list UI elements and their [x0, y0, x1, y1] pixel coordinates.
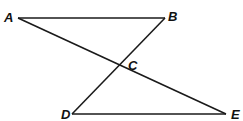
- label-e: E: [231, 107, 240, 121]
- label-a: A: [3, 10, 13, 25]
- segment-bd: [72, 18, 165, 114]
- label-d: D: [61, 107, 71, 121]
- label-b: B: [168, 9, 177, 24]
- label-c: C: [128, 58, 138, 73]
- geometry-diagram: A B C D E: [0, 0, 243, 121]
- segment-ae: [18, 18, 226, 114]
